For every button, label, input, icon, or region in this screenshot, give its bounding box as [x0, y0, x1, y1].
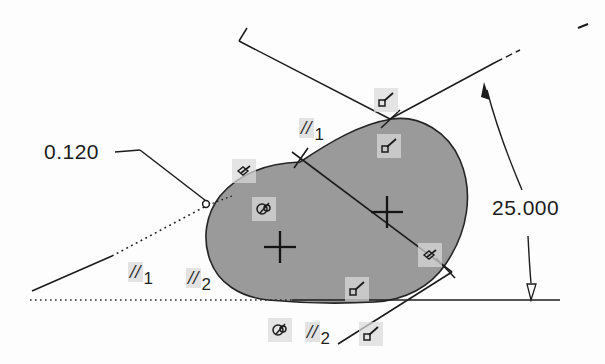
parallel-symbol: // — [128, 262, 143, 282]
perpendicular-icon — [377, 91, 395, 109]
tangent-icon — [421, 246, 439, 264]
endpoint-circle[interactable] — [203, 201, 210, 208]
inclined-construction-line[interactable] — [32, 256, 112, 291]
concentric-icon-bottom[interactable] — [268, 318, 292, 342]
perpendicular-icon — [380, 137, 398, 155]
dim-leader-lower[interactable] — [528, 236, 531, 283]
parallel-symbol: // — [299, 118, 314, 138]
tangent-icon — [235, 162, 253, 180]
stray-tick-top-right — [578, 24, 588, 28]
cad-sketch-canvas[interactable]: 0.120 25.000 // 1 // 1 // 2 // 2 — [0, 0, 605, 364]
parallel-index: 1 — [315, 128, 324, 142]
parallel-index: 2 — [321, 332, 330, 346]
tangent-icon-right[interactable] — [418, 243, 442, 267]
upper-right-leg[interactable] — [390, 62, 496, 119]
tangent-icon-left[interactable] — [232, 159, 256, 183]
parallel-constraint-1-lower[interactable]: // 1 — [128, 262, 153, 282]
parallel-constraint-2-lower[interactable]: // 2 — [186, 268, 211, 288]
dimension-label-25000[interactable]: 25.000 — [492, 196, 559, 220]
inclined-construction-line-dotted[interactable] — [112, 205, 208, 256]
parallel-constraint-2-bottom[interactable]: // 2 — [305, 322, 330, 342]
perpendicular-icon-upper[interactable] — [377, 134, 401, 158]
perpendicular-icon-top[interactable] — [374, 88, 398, 112]
parallel-index: 1 — [144, 272, 153, 286]
concentric-icon — [255, 200, 273, 218]
leader-line-0120-slant[interactable] — [140, 150, 210, 204]
perpendicular-icon-bottom[interactable] — [359, 322, 383, 346]
perpendicular-icon-lower[interactable] — [345, 277, 369, 301]
dim-arrow-lower — [527, 284, 536, 300]
parallel-symbol: // — [186, 268, 201, 288]
dimension-label-0120[interactable]: 0.120 — [44, 140, 99, 164]
perpendicular-icon — [348, 280, 366, 298]
dim-leader-upper[interactable] — [487, 90, 522, 190]
concentric-icon-left[interactable] — [252, 197, 276, 221]
profile-fill[interactable] — [206, 118, 468, 303]
parallel-symbol: // — [305, 322, 320, 342]
concentric-icon — [271, 321, 289, 339]
leader-line-0120[interactable] — [115, 150, 140, 152]
parallel-index: 2 — [202, 278, 211, 292]
upper-left-leg[interactable] — [239, 41, 390, 119]
perpendicular-icon — [362, 325, 380, 343]
sketch-vector-layer — [0, 0, 605, 364]
parallel-constraint-1-upper[interactable]: // 1 — [299, 118, 324, 138]
upper-v-polyline[interactable] — [239, 28, 247, 41]
dim-arrow-upper — [481, 82, 490, 100]
upper-right-leg-ext[interactable] — [496, 50, 520, 62]
